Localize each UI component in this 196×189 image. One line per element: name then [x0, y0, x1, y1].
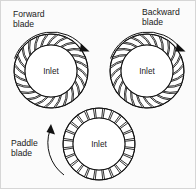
- blade: [95, 170, 103, 180]
- backward-blade-label-line2: blade: [142, 17, 163, 27]
- paddle-rotation-arc: [48, 130, 64, 175]
- forward-rotation-arrowhead: [80, 44, 90, 52]
- paddle-blade-label-line1: Paddle: [11, 138, 38, 148]
- blade: [95, 108, 103, 118]
- paddle-rotation-arrowhead: [47, 124, 56, 135]
- backward-rotation-arrowhead: [176, 44, 186, 52]
- forward-blade-label-line2: blade: [13, 19, 34, 29]
- forward-blade-label-line1: Forward: [13, 9, 45, 19]
- backward-inlet-label: Inlet: [139, 67, 155, 76]
- forward-inlet-label: Inlet: [43, 67, 59, 76]
- impeller-paddle: Inlet: [47, 108, 136, 180]
- impeller-forward: Inlet: [14, 32, 90, 108]
- impeller-backward: Inlet: [110, 32, 186, 108]
- backward-blade-label-line1: Backward: [142, 7, 180, 17]
- paddle-inlet-label: Inlet: [91, 140, 107, 149]
- impeller-diagram-svg: Inlet Forward blade Inlet Backward blade…: [1, 1, 196, 189]
- blade: [63, 140, 73, 148]
- blade: [125, 140, 135, 148]
- paddle-blade-label-line2: blade: [11, 148, 32, 158]
- impeller-blade-types-figure: Inlet Forward blade Inlet Backward blade…: [0, 0, 196, 189]
